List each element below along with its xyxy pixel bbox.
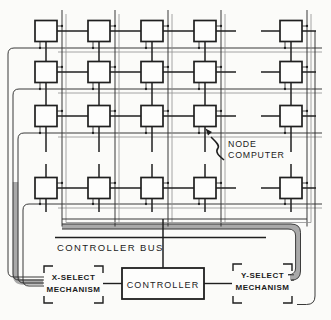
node-computer-r2c1 (35, 62, 57, 83)
diagram-canvas: CONTROLLER CONTROLLER BUS X-SELECT MECHA… (0, 0, 331, 320)
node-computer-r3c2 (88, 106, 110, 127)
controller-bus-label: CONTROLLER BUS (57, 242, 164, 253)
node-computer-r4c1 (35, 178, 57, 199)
node-computer-r4c4 (194, 178, 216, 199)
node-computer-r4c2 (88, 178, 110, 199)
node-computer-r3c3 (141, 106, 163, 127)
node-grid (35, 21, 302, 199)
y-select-mechanism: Y-SELECT MECHANISM (233, 264, 292, 303)
node-computer-label-line1: NODE (228, 139, 257, 149)
node-computer-r1c5 (280, 21, 302, 42)
node-computer-arrowhead (206, 129, 213, 136)
node-computer-r4c3 (141, 178, 163, 199)
node-computer-r2c3 (141, 62, 163, 83)
x-select-label-line1: X-SELECT (52, 273, 96, 282)
y-select-label-line1: Y-SELECT (241, 271, 284, 280)
node-computer-r1c4 (194, 21, 216, 42)
node-computer-r2c5 (280, 62, 302, 83)
node-computer-r3c1 (35, 106, 57, 127)
node-computer-r4c5 (280, 178, 302, 199)
node-computer-label-line2: COMPUTER (228, 150, 285, 160)
y-select-label-line2: MECHANISM (236, 283, 290, 292)
node-computer-r2c2 (88, 62, 110, 83)
x-select-mechanism: X-SELECT MECHANISM (44, 266, 103, 303)
node-computer-r1c1 (35, 21, 57, 42)
node-computer-r3c5 (280, 106, 302, 127)
architecture-diagram: CONTROLLER CONTROLLER BUS X-SELECT MECHA… (0, 0, 331, 320)
x-select-label-line2: MECHANISM (47, 285, 101, 294)
node-computer-arrow (211, 137, 224, 160)
node-computer-r1c2 (88, 21, 110, 42)
node-computer-r2c4 (194, 62, 216, 83)
controller-label: CONTROLLER (127, 280, 200, 290)
node-computer-r3c4 (194, 106, 216, 127)
node-computer-r1c3 (141, 21, 163, 42)
